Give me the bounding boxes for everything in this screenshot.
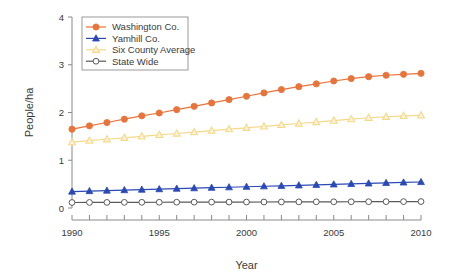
data-point [331,199,337,205]
data-point [261,90,267,96]
data-point [279,199,285,205]
x-axis-tick-label: 2010 [410,227,431,238]
data-point [226,97,232,103]
data-point [191,199,197,205]
data-point [348,75,354,81]
data-point [313,199,319,205]
data-point [383,199,389,205]
series-state-wide [69,199,424,206]
data-point [209,100,215,106]
data-point [226,199,232,205]
data-point [383,72,389,78]
data-point [86,123,92,129]
series-yamhill-co [69,178,425,194]
data-point [401,199,407,205]
chart-container: 0123419901995200020052010YearPeople/haWa… [0,0,460,279]
legend-label: Six County Average [112,44,195,55]
data-point [156,199,162,205]
y-axis-tick-label: 3 [59,59,64,70]
data-point [174,199,180,205]
y-axis-tick-label: 1 [59,155,64,166]
data-point [69,126,75,132]
data-point [418,70,424,76]
y-axis-tick-label: 0 [59,203,64,214]
x-axis-tick-label: 1990 [61,227,82,238]
data-point [348,199,354,205]
data-point [121,116,127,122]
y-axis-title: People/ha [23,87,35,137]
data-point [174,107,180,113]
legend-label: Yamhill Co. [112,33,160,44]
data-point [139,199,145,205]
legend-label: State Wide [112,56,158,67]
data-point [93,24,99,30]
x-axis-tick-label: 2005 [323,227,344,238]
x-axis-tick-label: 2000 [236,227,257,238]
y-axis-tick-label: 2 [59,107,64,118]
data-point [296,199,302,205]
line-chart: 0123419901995200020052010YearPeople/haWa… [0,0,460,279]
data-point [191,103,197,109]
data-point [104,200,110,206]
data-point [244,199,250,205]
data-point [418,199,424,205]
x-axis-title: Year [235,259,258,271]
x-axis-tick-label: 1995 [149,227,170,238]
data-point [69,200,75,206]
data-point [156,110,162,116]
data-point [400,71,406,77]
y-axis-tick-label: 4 [59,12,64,23]
data-point [121,199,127,205]
data-point [296,84,302,90]
data-point [93,58,99,64]
data-point [87,200,93,206]
data-point [243,93,249,99]
data-point [104,119,110,125]
data-point [331,78,337,84]
data-point [366,74,372,80]
data-point [261,199,267,205]
legend: Washington Co.Yamhill Co.Six County Aver… [82,17,195,70]
data-point [366,199,372,205]
data-point [278,86,284,92]
legend-label: Washington Co. [112,21,179,32]
data-point [313,81,319,87]
data-point [209,199,215,205]
series-washington-co [69,70,424,132]
data-point [139,113,145,119]
